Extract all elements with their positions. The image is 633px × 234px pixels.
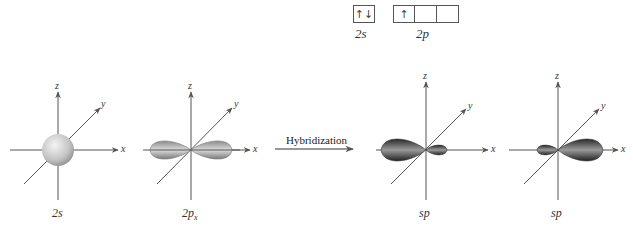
z-axis-label: z	[188, 80, 192, 91]
x-axis-label: x	[621, 143, 625, 154]
z-axis-label: z	[423, 70, 427, 81]
panel-label-sp: sp	[419, 206, 430, 221]
sp-large-lobe	[381, 139, 426, 161]
hybridization-label: Hybridization	[286, 134, 347, 146]
x-axis-label: x	[491, 143, 495, 154]
y-axis-label: y	[234, 98, 238, 109]
orbital-diagram	[0, 0, 633, 234]
z-axis-label: z	[555, 70, 559, 81]
y-axis-label: y	[601, 100, 605, 111]
label-main: 2p	[182, 206, 194, 220]
panel-label-2s: 2s	[52, 206, 63, 221]
panel-label-sp: sp	[551, 206, 562, 221]
y-axis-label: y	[101, 98, 105, 109]
panel-label-2px: 2px	[182, 206, 198, 222]
x-axis-label: x	[253, 143, 257, 154]
sp-small-lobe	[426, 145, 447, 155]
y-axis-label: y	[468, 100, 472, 111]
label-subscript: x	[194, 213, 198, 222]
x-axis-label: x	[121, 143, 125, 154]
s-orbital-sphere	[42, 134, 74, 166]
sp-large-lobe	[558, 139, 603, 161]
z-axis-label: z	[55, 80, 59, 91]
